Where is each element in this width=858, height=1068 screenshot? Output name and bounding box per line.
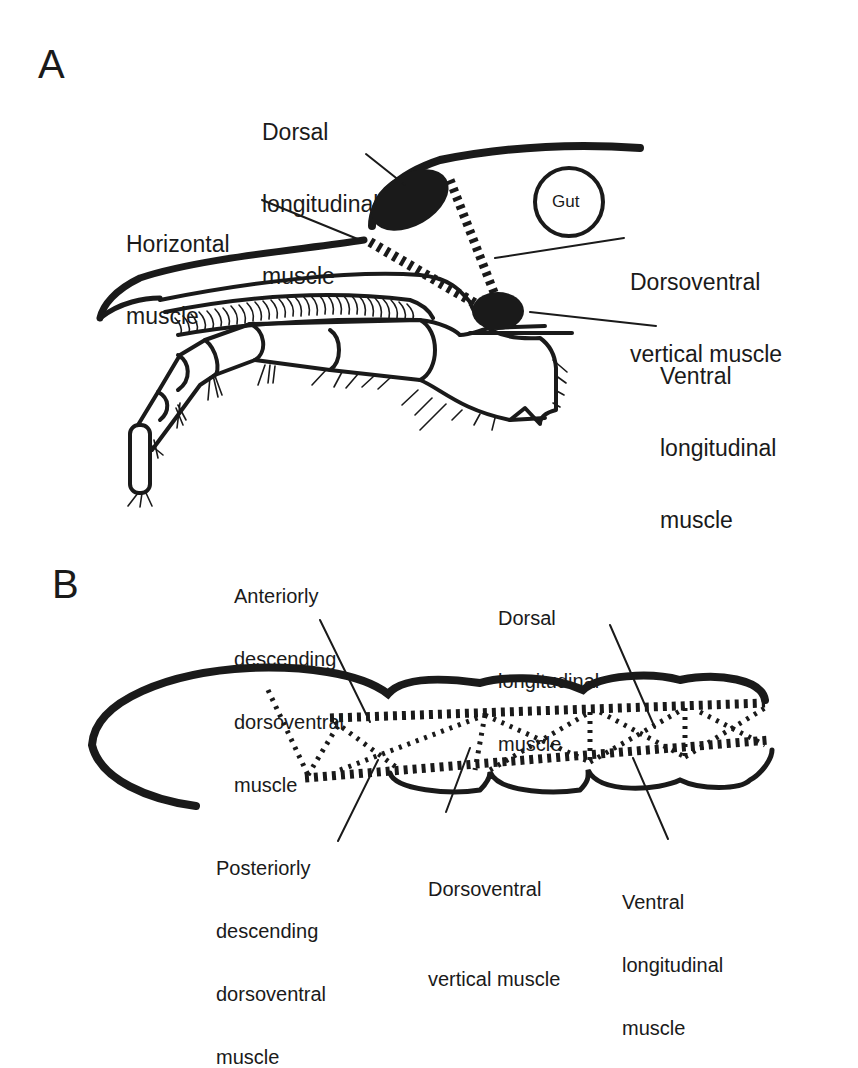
label-line: longitudinal [622,955,723,976]
panel-b-drawing [92,620,772,841]
label-line: muscle [660,508,776,532]
label-line: Anteriorly [234,586,344,607]
label-line: Dorsal [498,608,599,629]
label-line: muscle [234,775,344,796]
label-line: Posteriorly [216,858,326,879]
label-line: descending [216,921,326,942]
label-line: Ventral [660,364,776,388]
label-horizontal-muscle: Horizontal muscle [126,184,230,376]
label-ventral-longitudinal-muscle-a: Ventral longitudinal muscle [660,316,776,580]
label-line: longitudinal [262,192,378,216]
leg-hairs [128,360,567,507]
label-line: muscle [498,734,599,755]
label-line: muscle [126,304,230,328]
label-line: longitudinal [660,436,776,460]
label-line: longitudinal [498,671,599,692]
label-ventral-longitudinal-muscle-b: Ventral longitudinal muscle [622,850,723,1068]
label-anteriorly-descending-dorsoventral-muscle: Anteriorly descending dorsoventral muscl… [234,544,344,838]
panel-b-letter: B [52,564,79,604]
label-posteriorly-descending-dorsoventral-muscle: Posteriorly descending dorsoventral musc… [216,816,326,1068]
label-line: muscle [622,1018,723,1039]
label-dorsal-longitudinal-muscle-a: Dorsal longitudinal muscle [262,72,378,336]
ventral-longitudinal-muscle-a [472,292,524,330]
label-line: dorsoventral [216,984,326,1005]
label-line: muscle [262,264,378,288]
label-line: Dorsoventral [630,270,782,294]
dorsoventral-vertical-muscle-a [450,180,495,295]
label-line: Dorsoventral [428,874,560,904]
label-line: muscle [216,1047,326,1068]
label-line: vertical muscle [428,964,560,994]
label-line: Ventral [622,892,723,913]
label-line: Dorsal [262,120,378,144]
label-line: descending [234,649,344,670]
label-line: dorsoventral [234,712,344,733]
label-dorsal-longitudinal-muscle-b: Dorsal longitudinal muscle [498,566,599,797]
label-gut: Gut [552,192,579,212]
label-dorsoventral-vertical-muscle-b: Dorsoventral vertical muscle [428,814,560,1054]
panel-b-leader-lines [320,620,668,841]
label-line: Horizontal [126,232,230,256]
